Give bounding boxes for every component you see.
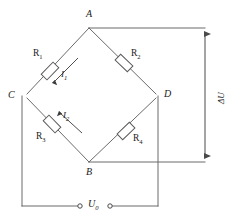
resistor-label-R3: R3 — [36, 131, 46, 143]
current-label-I1: I1 — [61, 69, 67, 81]
resistor-R1-body — [41, 62, 59, 80]
source-terminal-right[interactable] — [108, 204, 112, 208]
resistor-label-R4-sub: 4 — [139, 138, 142, 145]
resistor-label-R1-sub: 1 — [39, 53, 42, 60]
resistor-R3-body — [43, 115, 61, 133]
node-label-B: B — [86, 166, 92, 177]
current-label-I1-sub: 1 — [64, 74, 67, 81]
resistor-label-R2: R2 — [131, 48, 141, 60]
circuit-diagram-canvas: A C D B R1 R2 R3 R4 I1 I2 ΔU U0 — [0, 0, 237, 219]
delta-u-label: ΔU — [216, 92, 226, 104]
node-label-D: D — [164, 88, 171, 99]
source-label-U0: U0 — [88, 198, 98, 211]
resistor-label-R2-sub: 2 — [137, 53, 140, 60]
node-label-C: C — [8, 89, 15, 100]
resistor-label-R3-sub: 3 — [42, 136, 45, 143]
current-label-I2-sub: 2 — [66, 115, 69, 122]
circuit-schematic-svg — [0, 0, 237, 219]
resistor-label-R4: R4 — [133, 133, 143, 145]
current-label-I2: I2 — [63, 110, 69, 122]
source-label-U0-sub: 0 — [95, 204, 98, 211]
resistor-label-R1: R1 — [33, 48, 43, 60]
node-label-A: A — [86, 8, 92, 19]
branch-C-A — [27, 28, 89, 94]
source-terminal-left[interactable] — [78, 204, 82, 208]
